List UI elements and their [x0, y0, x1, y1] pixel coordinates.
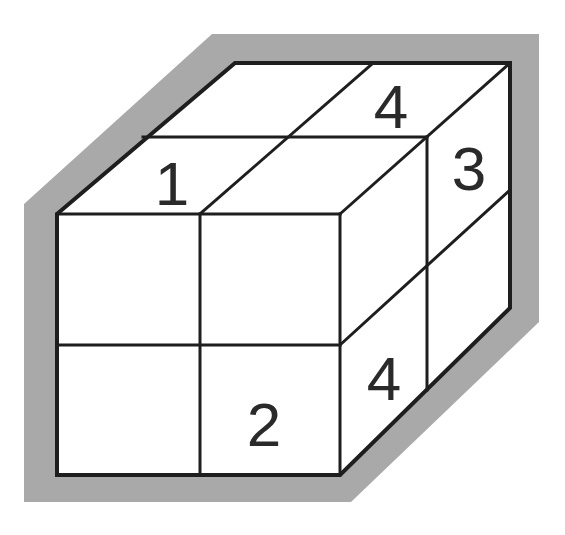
label-right-bottom-front: 4 [367, 344, 401, 413]
label-top-front-left: 1 [155, 149, 189, 218]
cube-diagram: 1 4 3 4 2 [0, 0, 565, 535]
label-top-back-right: 4 [374, 72, 408, 141]
label-right-top-back: 3 [452, 134, 486, 203]
label-front-bottom-right: 2 [247, 390, 281, 459]
